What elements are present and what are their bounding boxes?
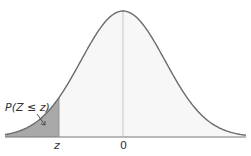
- z-tick-label: z: [54, 139, 60, 152]
- zero-tick-label: 0: [120, 139, 127, 152]
- unshaded-area: [59, 11, 246, 137]
- probability-label: P(Z ≤ z): [5, 101, 50, 114]
- normal-distribution-chart: [0, 0, 251, 156]
